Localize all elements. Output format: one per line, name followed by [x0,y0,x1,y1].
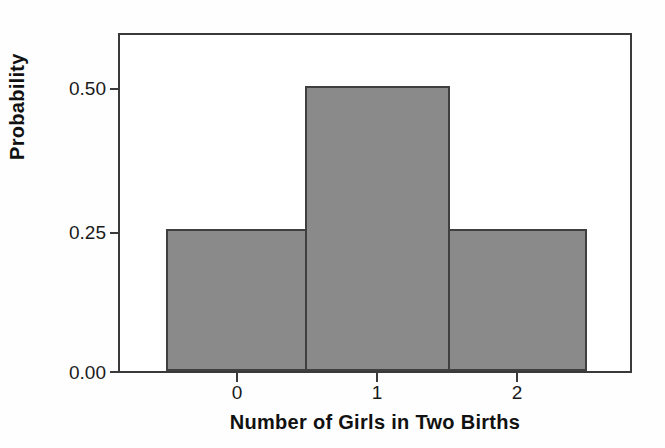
x-axis-tick-mark [376,373,378,382]
y-axis-tick-label: 0.00 [69,362,106,384]
probability-distribution-histogram: Probability 0.50 0.25 0.00 0 1 2 Number … [0,0,665,448]
bars-layer [120,35,630,371]
plot-area [118,33,632,373]
y-axis-label: Probability [6,0,36,160]
x-axis-tick-mark [236,373,238,382]
bar [448,229,587,371]
bar [166,229,307,371]
y-axis-tick-label: 0.25 [69,222,106,244]
y-axis-tick-labels: 0.50 0.25 0.00 [46,0,106,448]
bar [305,86,450,371]
y-axis-tick-label: 0.50 [69,78,106,100]
x-axis-tick-label: 1 [357,382,397,404]
x-axis-tick-label: 2 [497,382,537,404]
x-axis-label: Number of Girls in Two Births [118,411,632,434]
x-axis-tick-label: 0 [217,382,257,404]
x-axis-tick-mark [516,373,518,382]
